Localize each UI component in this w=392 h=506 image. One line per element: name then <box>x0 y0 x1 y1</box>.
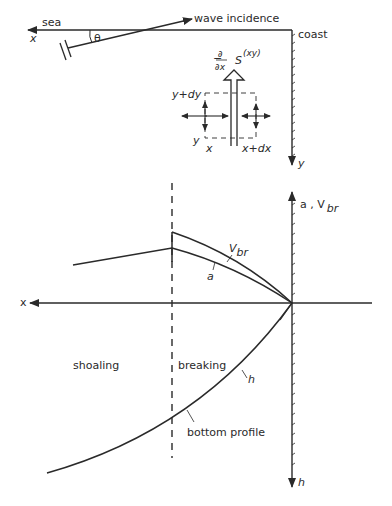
theta-label: θ <box>94 32 101 45</box>
shoaling-zone-label: shoaling <box>73 359 119 372</box>
element-bottom-label: y <box>192 134 200 147</box>
stress-gradient-label: − ∂ ∂x S (xy) <box>213 48 261 72</box>
a-vbr-axis-label: a , Vbr <box>300 198 340 215</box>
a-label: a <box>207 270 214 283</box>
hollow-stress-arrow <box>224 70 244 146</box>
vbr-label: Vbr <box>229 242 250 259</box>
svg-text:S: S <box>235 54 242 67</box>
right-force-arrows <box>242 104 270 128</box>
bottom-profile-curve <box>47 303 292 473</box>
a-leader <box>213 262 215 270</box>
left-force-arrows <box>182 102 228 130</box>
element-top-label: y+dy <box>171 88 202 101</box>
plan-x-label: x <box>29 32 37 45</box>
profile-view: x a , Vbr h Vbr <box>20 183 372 489</box>
svg-text:∂: ∂ <box>218 49 223 59</box>
plan-view: x sea wave incidence θ coast y − <box>28 12 328 170</box>
coast-label: coast <box>298 28 328 41</box>
element-left-label: x <box>205 142 213 155</box>
bottom-profile-label: bottom profile <box>187 426 265 439</box>
coastal-diagram: x sea wave incidence θ coast y − <box>0 0 392 506</box>
svg-text:∂x: ∂x <box>215 62 226 72</box>
h-curve-label: h <box>248 373 255 386</box>
profile-x-label: x <box>20 296 27 309</box>
breaking-zone-label: breaking <box>178 359 226 372</box>
wave-incidence-label: wave incidence <box>194 12 279 25</box>
angle-arc <box>90 30 92 43</box>
wave-incidence-arrow <box>68 19 192 48</box>
element-right-label: x+dx <box>241 142 272 155</box>
svg-text:(xy): (xy) <box>243 48 261 58</box>
bottom-profile-leader <box>187 410 194 422</box>
wave-crest-icon <box>60 40 71 60</box>
h-leader <box>242 370 247 378</box>
plan-y-label: y <box>297 157 305 170</box>
h-axis-label: h <box>298 476 305 489</box>
sea-label: sea <box>42 16 61 29</box>
